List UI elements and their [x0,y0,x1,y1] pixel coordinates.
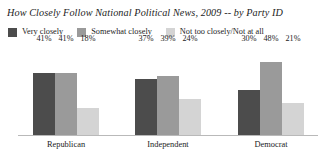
x-axis-line [18,135,318,136]
bar-value-label: 41% [36,34,51,43]
bar-value-label: 41% [58,34,73,43]
x-axis-category-labels: Republican Independent Democrat [0,139,325,153]
bar-value-label: 37% [138,34,153,43]
legend-swatch-icon [8,28,17,37]
bar-rect [179,99,201,135]
bar-group-democrat: 30% 48% 21% [238,44,304,135]
bar-rect [55,73,77,135]
chart-title: How Closely Follow National Political Ne… [7,7,283,19]
bar-rect [238,90,260,136]
bar-group-republican: 41% 41% 18% [33,44,99,135]
bar-rect [33,73,55,135]
bar-value-label: 30% [241,34,256,43]
bar-democrat-somewhat-closely: 48% [260,44,282,135]
bar-value-label: 24% [182,34,197,43]
bar-independent-not-too-closely: 24% [179,44,201,135]
bar-independent-very-closely: 37% [135,44,157,135]
bar-rect [135,79,157,135]
bar-republican-not-too-closely: 18% [77,44,99,135]
bar-independent-somewhat-closely: 39% [157,44,179,135]
bar-value-label: 18% [80,34,95,43]
bar-chart-figure: How Closely Follow National Political Ne… [0,0,325,159]
bar-value-label: 48% [263,34,278,43]
bar-value-label: 21% [285,34,300,43]
bar-rect [157,76,179,135]
bar-democrat-very-closely: 30% [238,44,260,135]
bar-democrat-not-too-closely: 21% [282,44,304,135]
bar-republican-very-closely: 41% [33,44,55,135]
bar-rect [282,103,304,135]
plot-area: 41% 41% 18% 37% 39% [0,44,325,136]
bar-republican-somewhat-closely: 41% [55,44,77,135]
x-axis-label-democrat: Democrat [211,139,325,150]
bar-value-label: 39% [160,34,175,43]
x-axis-label-independent: Independent [108,139,228,150]
bar-rect [77,108,99,135]
bar-group-independent: 37% 39% 24% [135,44,201,135]
bar-rect [260,62,282,135]
